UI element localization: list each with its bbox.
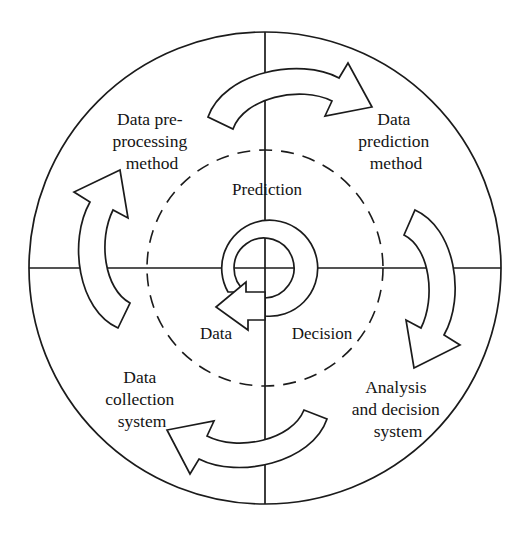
label-bottom-right: Analysis and decision system: [352, 377, 444, 441]
left-curved-arrow: [74, 170, 130, 328]
bottom-curved-arrow: [167, 410, 327, 474]
label-bottom-left-line-2: collection: [105, 389, 174, 409]
label-bottom-right-line-2: and decision: [352, 399, 440, 419]
label-top-left-line-2: processing: [112, 131, 187, 151]
label-bottom-left-line-1: Data: [123, 367, 156, 387]
diagram-canvas: Data pre- processing method Data predict…: [0, 0, 520, 539]
label-top-left-line-1: Data pre-: [117, 109, 183, 129]
label-top-right: Data prediction method: [358, 109, 433, 173]
label-top-right-line-2: prediction: [358, 131, 429, 151]
label-prediction: Prediction: [232, 180, 302, 199]
center-spiral-arrowhead: [216, 282, 265, 330]
label-bottom-left: Data collection system: [105, 367, 178, 431]
right-curved-arrow: [404, 210, 460, 368]
label-bottom-left-line-3: system: [118, 411, 167, 431]
label-data: Data: [200, 324, 233, 343]
label-decision: Decision: [292, 324, 353, 343]
label-top-left-line-3: method: [126, 153, 179, 173]
top-curved-arrow: [208, 63, 372, 129]
label-top-left: Data pre- processing method: [112, 109, 191, 173]
label-bottom-right-line-1: Analysis: [365, 377, 426, 397]
label-top-right-line-3: method: [370, 153, 423, 173]
label-bottom-right-line-3: system: [374, 421, 423, 441]
label-top-right-line-1: Data: [377, 109, 410, 129]
cycle-diagram: Data pre- processing method Data predict…: [0, 0, 520, 539]
